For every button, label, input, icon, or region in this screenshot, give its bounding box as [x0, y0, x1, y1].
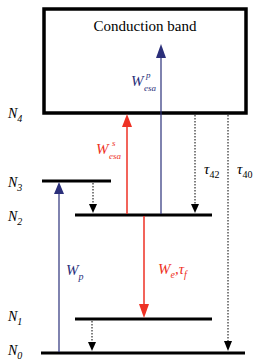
arrowhead-down-icon [89, 204, 97, 213]
tau40-label: τ40 [237, 161, 252, 180]
pump-arrow-wp: Wp [54, 182, 84, 352]
wesa-s-label: W [96, 141, 110, 157]
arrowhead-up-icon [122, 114, 132, 127]
arrowhead-down-icon [224, 341, 232, 351]
decay-arrow-tau42: τ42 [191, 115, 219, 213]
conduction-band-label: Conduction band [94, 18, 197, 34]
we-tf-label: We,τf [158, 261, 188, 280]
arrowhead-down-icon [139, 304, 149, 318]
emission-arrow: We,τf [139, 216, 188, 318]
energy-level-diagram: Conduction band N4 N3 N2 N1 N0 Wp W p es… [0, 0, 257, 362]
wesa-s-sub: esa [109, 151, 121, 161]
tau42-label: τ42 [204, 161, 219, 180]
wesa-p-sub: esa [144, 83, 156, 93]
level-label-n3: N3 [7, 175, 22, 193]
arrowhead-up-icon [54, 182, 64, 194]
decay-arrow-tau40: τ40 [224, 115, 252, 351]
esa-signal-arrow: W s esa [96, 114, 132, 214]
level-label-n4: N4 [7, 106, 22, 124]
wesa-s-sup: s [112, 138, 116, 148]
conduction-band: Conduction band [44, 9, 246, 113]
wp-label: Wp [66, 262, 84, 282]
decay-arrow-n1-n0 [88, 321, 96, 351]
wesa-p-label: W [131, 73, 145, 89]
arrowhead-down-icon [88, 342, 96, 351]
level-label-n1: N1 [7, 309, 22, 327]
level-label-n2: N2 [7, 209, 22, 227]
arrowhead-down-icon [191, 204, 199, 213]
wesa-p-sup: p [145, 70, 151, 80]
level-label-n0: N0 [7, 343, 22, 361]
decay-arrow-n3-n2 [89, 183, 97, 213]
